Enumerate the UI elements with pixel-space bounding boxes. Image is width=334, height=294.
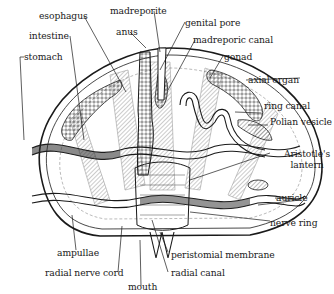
label-aristotles-lantern-2: lantern [282,160,332,170]
label-esophagus: esophagus [39,11,88,21]
label-axial-organ: axial organ [248,75,299,85]
label-gonad: gonad [224,52,252,62]
label-radial-nerve-cord: radial nerve cord [45,268,124,278]
gonad-left [62,80,122,140]
label-nerve-ring: nerve ring [270,218,317,228]
diagram-stage: esophagus madreporite anus genital pore … [0,0,334,294]
label-aristotles-lantern-1: Aristotle's [282,149,332,159]
label-madreporite: madreporite [110,6,167,16]
label-genital-pore: genital pore [185,18,240,28]
label-auricle: auricle [276,193,308,203]
label-ring-canal: ring canal [264,101,310,111]
label-peristomial-membrane: peristomial membrane [171,250,275,260]
label-ampullae: ampullae [57,248,99,258]
label-intestine: intestine [29,31,69,41]
label-mouth: mouth [128,282,157,292]
label-stomach: stomach [24,52,63,62]
sea-urchin-anatomy-drawing [0,0,334,294]
label-madreporic-canal: madreporic canal [193,35,273,45]
label-polian-vesicle: Polian vesicle [270,117,332,127]
label-radial-canal: radial canal [171,268,225,278]
esophagus-shape [137,52,153,175]
label-anus: anus [116,27,138,37]
